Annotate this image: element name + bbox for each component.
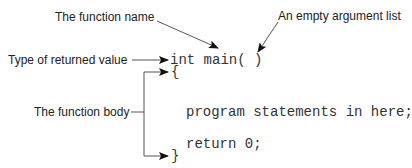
function-body-label: The function body xyxy=(34,105,129,119)
program-statements-line: program statements in here; xyxy=(186,104,412,120)
empty-argument-list-label: An empty argument list xyxy=(278,9,401,23)
c-main-function-anatomy-diagram: The function name An empty argument list… xyxy=(0,0,412,168)
function-name-label: The function name xyxy=(55,10,154,24)
return-statement-line: return 0; xyxy=(186,136,262,152)
function-signature: int main( ) xyxy=(170,52,262,68)
open-brace: { xyxy=(171,64,179,80)
return-type-label: Type of returned value xyxy=(8,53,127,67)
close-brace: } xyxy=(171,148,179,164)
function-name-arrow xyxy=(157,21,218,48)
argument-list-arrow xyxy=(258,22,278,52)
